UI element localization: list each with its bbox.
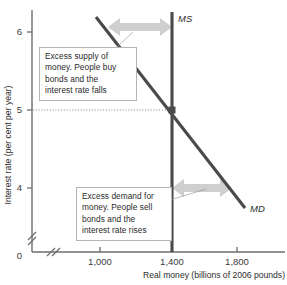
x-tick-label-1000: 1,000 (88, 256, 112, 267)
excess-supply-line-3: bonds and the (45, 74, 132, 85)
x-tick-label-1400: 1,400 (160, 256, 184, 267)
y-tick-label-5: 5 (17, 104, 22, 115)
excess-supply-line-2: money. People buy (45, 62, 132, 73)
y-tick-label-4: 4 (17, 182, 22, 193)
money-supply-curve-label: MS (178, 13, 193, 24)
excess-supply-arrow (108, 18, 172, 36)
excess-supply-line-4: interest rate falls (45, 85, 132, 96)
y-tick-label-0: 0 (17, 250, 22, 261)
chart-canvas: 6 5 4 0 1,000 1,400 1,800 MS MD Real mon… (0, 0, 287, 285)
money-demand-curve-label: MD (250, 203, 265, 214)
excess-demand-line-2: money. People sell (82, 202, 167, 213)
y-axis-title: Interest rate (per cent per year) (3, 85, 13, 204)
excess-demand-line-4: interest rate rises (82, 225, 167, 236)
money-market-chart: 6 5 4 0 1,000 1,400 1,800 MS MD Real mon… (0, 0, 287, 285)
excess-supply-line-1: Excess supply of (45, 51, 132, 62)
x-tick-label-1800: 1,800 (225, 256, 249, 267)
excess-demand-callout: Excess demand for money. People sell bon… (76, 187, 172, 241)
equilibrium-point-marker (169, 107, 176, 114)
excess-demand-line-3: bonds and the (82, 214, 167, 225)
excess-supply-callout: Excess supply of money. People buy bonds… (39, 47, 137, 101)
y-tick-label-6: 6 (17, 26, 22, 37)
excess-demand-line-1: Excess demand for (82, 191, 167, 202)
x-axis-title: Real money (billions of 2006 pounds) (143, 270, 285, 280)
